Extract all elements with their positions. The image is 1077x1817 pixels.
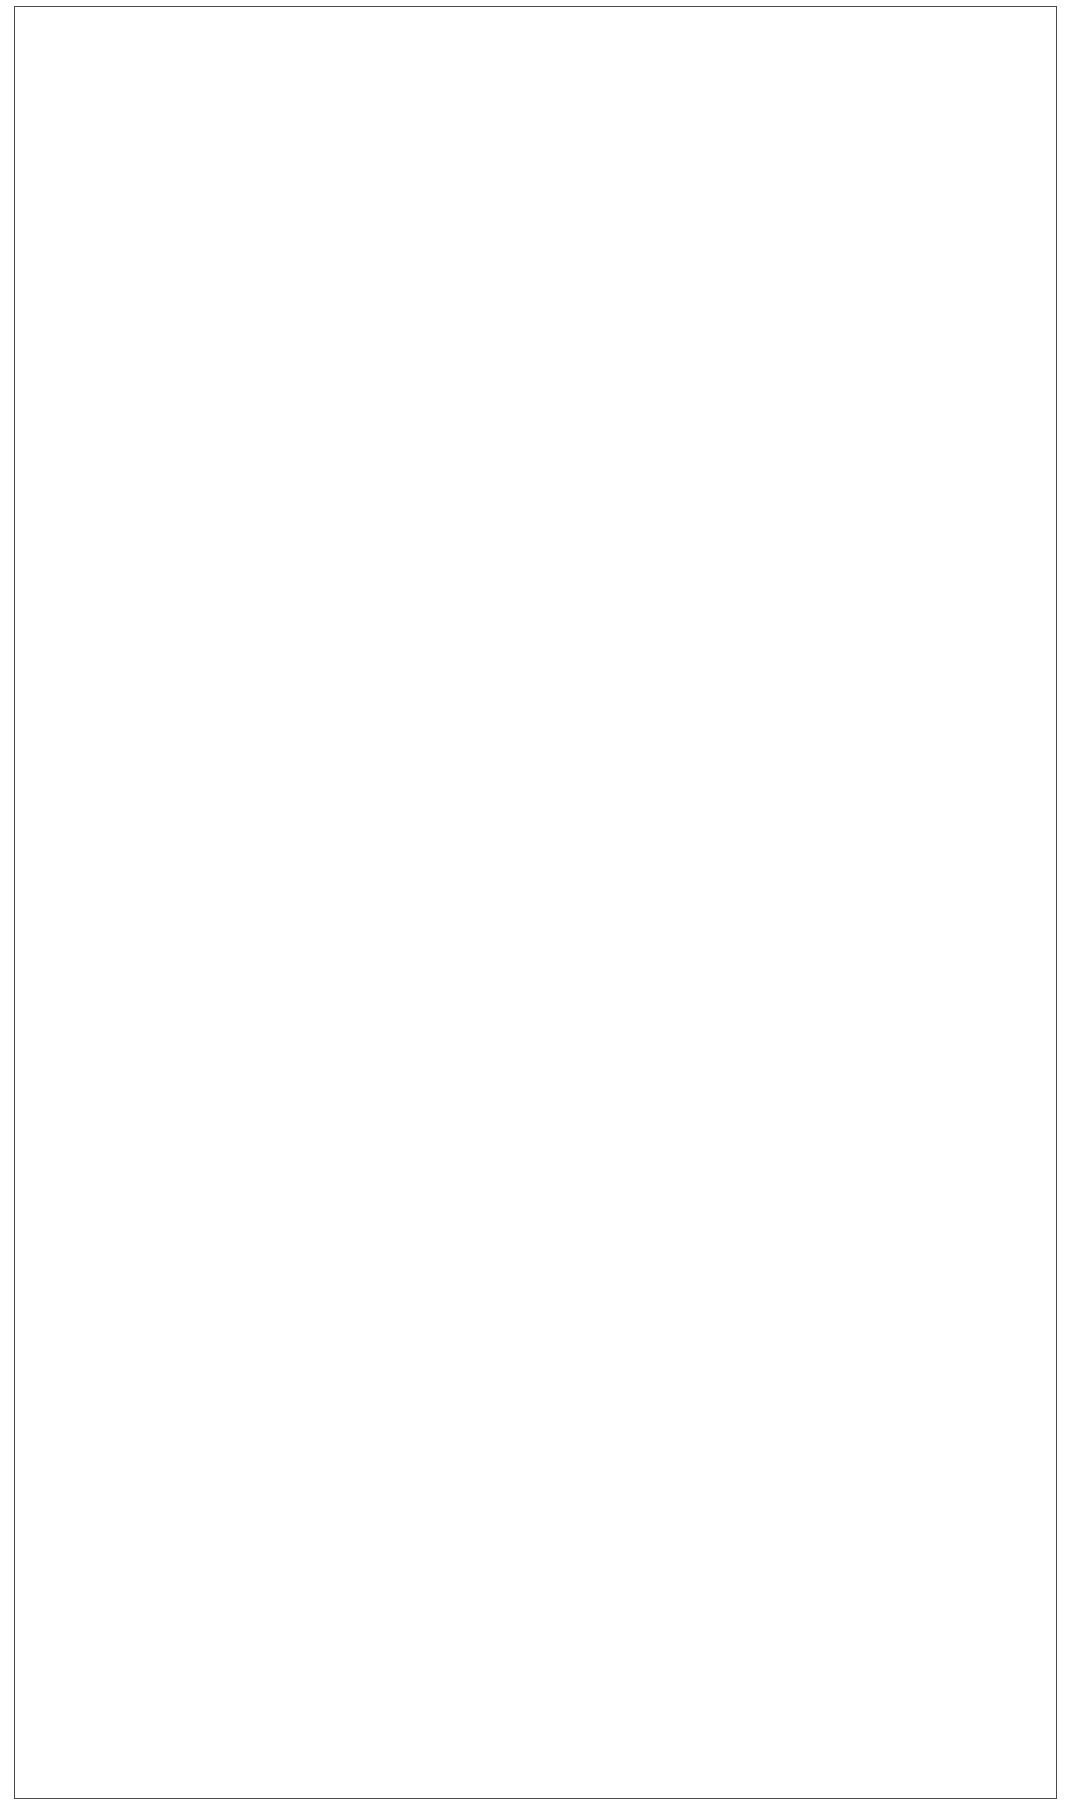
figure-page [0,0,1077,1817]
figure-border [14,6,1057,1799]
